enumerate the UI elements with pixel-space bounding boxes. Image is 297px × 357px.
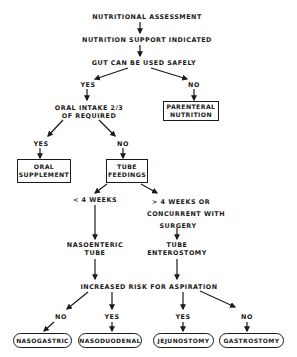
aspiration-no-left-label: NO xyxy=(55,313,67,321)
enterostomy-line2: ENTEROSTOMY xyxy=(147,249,207,257)
nasoenteric-line2: TUBE xyxy=(67,249,123,257)
tube-feedings-box: TUBE FEEDINGS xyxy=(106,159,148,183)
oral-supplement-box: ORAL SUPPLEMENT xyxy=(17,159,71,183)
nutrition-support-label: NUTRITION SUPPORT INDICATED xyxy=(82,36,212,44)
long-term-label: > 4 WEEKS OR CONCURRENT WITH SURGERY xyxy=(147,196,225,232)
oral-intake-label: ORAL INTAKE 2/3 OF REQUIRED xyxy=(55,104,123,120)
oral-yes-label: YES xyxy=(33,140,48,148)
aspiration-yes-left-label: YES xyxy=(104,313,119,321)
nutritional-assessment-label: NUTRITIONAL ASSESSMENT xyxy=(92,13,202,21)
aspiration-no-right-label: NO xyxy=(241,313,253,321)
gut-safety-label: GUT CAN BE USED SAFELY xyxy=(92,59,196,67)
oral-intake-line2: OF REQUIRED xyxy=(55,112,123,120)
long-term-line1: > 4 WEEKS OR xyxy=(137,196,225,208)
tube-feedings-line2: FEEDINGS xyxy=(108,171,146,179)
gut-yes-label: YES xyxy=(80,81,95,89)
gut-no-label: NO xyxy=(188,81,200,89)
oral-no-label: NO xyxy=(117,140,129,148)
gastrostomy-oval: GASTROSTOMY xyxy=(219,333,284,348)
nasoenteric-tube-label: NASOENTERIC TUBE xyxy=(67,241,123,257)
parenteral-line2: NUTRITION xyxy=(170,111,212,119)
nasoenteric-line1: NASOENTERIC xyxy=(67,241,123,249)
nasoduodenal-oval: NASODUODENAL xyxy=(78,333,142,348)
aspiration-yes-right-label: YES xyxy=(175,313,190,321)
parenteral-line1: PARENTERAL xyxy=(167,103,216,111)
long-term-line3: SURGERY xyxy=(131,220,225,232)
tube-enterostomy-label: TUBE ENTEROSTOMY xyxy=(147,241,207,257)
parenteral-nutrition-box: PARENTERAL NUTRITION xyxy=(163,101,219,121)
long-term-line2: CONCURRENT WITH xyxy=(147,208,225,220)
enterostomy-line1: TUBE xyxy=(147,241,207,249)
aspiration-risk-label: INCREASED RISK FOR ASPIRATION xyxy=(80,283,217,291)
jejunostomy-oval: JEJUNOSTOMY xyxy=(153,333,214,348)
oral-supplement-line1: ORAL xyxy=(34,163,54,171)
nasogastric-oval: NASOGASTRIC xyxy=(13,333,72,348)
short-term-label: < 4 WEEKS xyxy=(73,196,117,204)
tube-feedings-line1: TUBE xyxy=(117,163,137,171)
oral-supplement-line2: SUPPLEMENT xyxy=(19,171,70,179)
oral-intake-line1: ORAL INTAKE 2/3 xyxy=(55,104,123,112)
